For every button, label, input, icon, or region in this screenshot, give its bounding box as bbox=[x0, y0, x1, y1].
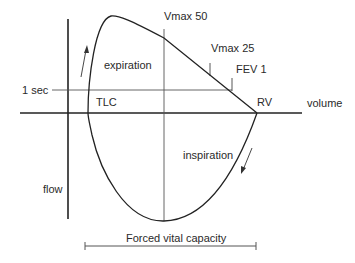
fev1-label: FEV 1 bbox=[236, 64, 267, 75]
expiration-label: expiration bbox=[104, 60, 152, 71]
flow-volume-loop-diagram bbox=[0, 0, 355, 263]
expiration-arrowhead bbox=[84, 45, 89, 53]
rv-label: RV bbox=[257, 97, 272, 108]
flow-label: flow bbox=[43, 184, 63, 195]
tlc-label: TLC bbox=[96, 97, 117, 108]
inspiration-arrow bbox=[243, 148, 252, 170]
inspiration-arrowhead bbox=[241, 166, 246, 174]
fvc-label: Forced vital capacity bbox=[126, 233, 226, 244]
vmax50-label: Vmax 50 bbox=[164, 11, 207, 22]
expiration-arrow bbox=[81, 50, 86, 77]
inspiration-curve bbox=[88, 113, 257, 221]
one-sec-label: 1 sec bbox=[22, 85, 48, 96]
vmax25-label: Vmax 25 bbox=[211, 43, 254, 54]
inspiration-label: inspiration bbox=[183, 150, 233, 161]
volume-label: volume bbox=[307, 98, 342, 109]
